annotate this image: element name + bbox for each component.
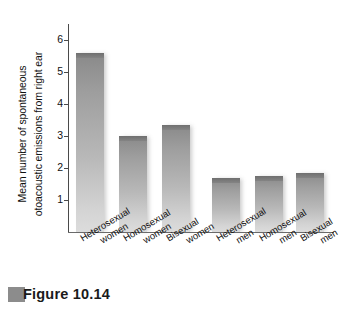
bar-top-cap — [119, 136, 147, 141]
y-tick-mark — [64, 104, 69, 105]
figure-container: Mean number of spontaneous otoacoustic e… — [0, 0, 339, 309]
y-tick-mark — [64, 168, 69, 169]
bar-top-cap — [296, 173, 324, 178]
caption-label: Figure 10.14 — [23, 286, 110, 302]
y-tick-mark — [64, 200, 69, 201]
y-tick-mark — [64, 40, 69, 41]
bar-top-cap — [212, 178, 240, 183]
y-tick-3: 3 — [68, 136, 73, 137]
y-tick-mark — [64, 136, 69, 137]
y-tick-label: 5 — [49, 65, 63, 78]
y-tick-label: 6 — [49, 33, 63, 46]
bar-top-cap — [162, 125, 190, 130]
y-tick-mark — [64, 72, 69, 73]
y-tick-label: 4 — [49, 97, 63, 110]
bar-1 — [76, 53, 104, 232]
bar-top-cap — [76, 53, 104, 58]
y-tick-6: 6 — [68, 40, 73, 41]
y-axis-title-line2: otoacoustic emissions from right ear — [30, 28, 46, 240]
y-tick-label: 2 — [49, 161, 63, 174]
y-tick-1: 1 — [68, 200, 73, 201]
y-tick-5: 5 — [68, 72, 73, 73]
bar-top-cap — [255, 176, 283, 181]
y-tick-label: 1 — [49, 193, 63, 206]
y-tick-label: 3 — [49, 129, 63, 142]
y-axis-title-line1: Mean number of spontaneous — [14, 28, 30, 240]
y-tick-2: 2 — [68, 168, 73, 169]
y-tick-4: 4 — [68, 104, 73, 105]
y-axis-title: Mean number of spontaneous otoacoustic e… — [14, 28, 54, 240]
figure-caption: Figure 10.14 — [8, 286, 110, 302]
x-axis-labels: HeterosexualwomenHomosexualwomenBisexual… — [68, 234, 334, 288]
